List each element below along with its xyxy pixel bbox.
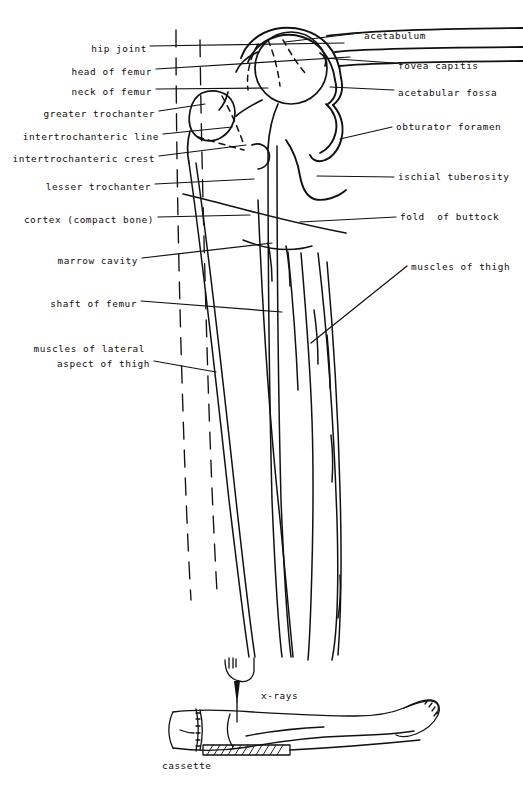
leader-greater-trochanter (159, 104, 205, 111)
acetabular-rim (333, 78, 342, 105)
greater-trochanter-outline (189, 91, 235, 141)
label-obturator-foramen: obturator foramen (396, 121, 501, 134)
label-cortex-compact-bone: cortex (compact bone) (24, 214, 154, 227)
femoral-neck-trabecular-dashed (247, 44, 258, 90)
thigh-section-left (169, 712, 173, 748)
medial-thigh-outline (318, 253, 338, 660)
leader-head-of-femur (156, 57, 350, 69)
lateral-femoral-cortex-upper (188, 131, 190, 163)
obturator-foramen-hook (310, 105, 343, 161)
leader-acetabular-fossa (330, 87, 394, 90)
linea-aspera (258, 200, 293, 657)
figure-canvas: hip joint head of femur neck of femur gr… (0, 0, 523, 788)
thigh-muscle-border-1 (301, 253, 313, 660)
label-neck-of-femur: neck of femur (71, 86, 152, 99)
thigh-soft-tissue (183, 194, 346, 660)
thigh-crease-inset (180, 730, 194, 733)
label-fold-of-buttock: fold of buttock (400, 211, 499, 224)
label-cassette: cassette (162, 760, 212, 773)
medial-neck-dashed (268, 40, 280, 86)
label-ischial-tuberosity: ischial tuberosity (398, 171, 510, 184)
table-surface-line (290, 740, 420, 750)
leader-ischial-tuberosity (317, 176, 394, 177)
head-of-femur-outline (255, 32, 327, 104)
lesser-trochanter-outline (252, 144, 269, 169)
label-acetabulum: acetabulum (364, 30, 426, 43)
superior-pubic-ramus (320, 104, 336, 153)
label-marrow-cavity: marrow cavity (57, 255, 138, 268)
label-muscles-of-lateral-aspect-line2: aspect of thigh (57, 358, 150, 371)
label-fovea-capitis: fovea capitis (398, 60, 479, 73)
acetabular-rim-inner (328, 80, 336, 104)
drape-fold-1 (196, 709, 198, 751)
head-trabecular-dashed (283, 40, 306, 74)
label-muscles-of-lateral-aspect-line1: muscles of lateral (34, 343, 146, 356)
calcar-femorale (268, 104, 278, 148)
leader-intertrochanteric-line (163, 127, 232, 134)
leader-shaft-of-femur (141, 301, 282, 312)
label-acetabular-fossa: acetabular fossa (398, 87, 497, 100)
label-muscles-of-thigh: muscles of thigh (411, 261, 510, 274)
leader-muscles-lateral-thigh (154, 361, 216, 372)
lateral-cortex-inner (196, 163, 255, 657)
femoral-head-and-neck (236, 32, 327, 148)
drape-fold-2 (200, 710, 202, 750)
femoral-shaft (189, 146, 293, 657)
label-greater-trochanter: greater trochanter (44, 108, 156, 121)
hip-contour-inset (228, 714, 233, 747)
label-x-rays: x-rays (261, 690, 298, 703)
neck-inferior-border (236, 100, 262, 116)
label-intertrochanteric-crest: intertrochanteric crest (13, 153, 155, 166)
leader-neck-of-femur (156, 88, 268, 89)
label-intertrochanteric-line: intertrochanteric line (23, 131, 159, 144)
label-head-of-femur: head of femur (71, 66, 152, 79)
leader-fovea-capitis (323, 58, 394, 63)
trochanteric-fossa (219, 92, 228, 110)
leg-upper-contour (173, 701, 438, 716)
toes-3 (432, 707, 435, 711)
toes-2 (429, 703, 432, 707)
muscle-striation-5 (331, 435, 333, 482)
leader-lesser-trochanter (155, 179, 254, 184)
label-shaft-of-femur: shaft of femur (50, 298, 137, 311)
muscle-striation-4 (327, 335, 330, 388)
medial-cortex-outer (277, 146, 291, 657)
leader-obturator-foramen (340, 127, 392, 139)
muscle-striation-3 (314, 310, 318, 364)
leader-fold-of-buttock (300, 217, 396, 222)
intertrochanteric-markings (198, 40, 306, 150)
label-lesser-trochanter: lesser trochanter (46, 181, 151, 194)
leg-lower-contour (173, 731, 414, 750)
lateral-cortex-outer (189, 163, 249, 657)
foot-outline (396, 700, 439, 737)
label-hip-joint: hip joint (91, 43, 147, 56)
inset-xray-setup (169, 658, 439, 755)
lateral-muscle-planes-dashed (176, 30, 217, 600)
teardrop-lateral (335, 47, 523, 52)
femur-shadow-inset (246, 727, 324, 736)
